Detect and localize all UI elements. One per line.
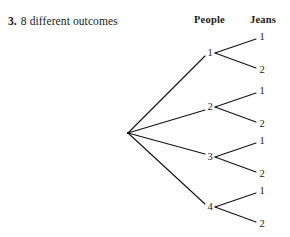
- people-1-to-jeans-2: [215, 53, 256, 68]
- people-node-3: 3: [205, 151, 215, 162]
- people-3-to-jeans-2: [215, 157, 256, 172]
- people-3-to-jeans-1: [215, 143, 256, 157]
- jeans-node-4-1: 1: [257, 185, 267, 196]
- people-node-2: 2: [205, 101, 215, 112]
- jeans-node-3-1: 1: [257, 135, 267, 146]
- jeans-node-3-2: 2: [257, 168, 267, 179]
- jeans-node-2-2: 2: [257, 118, 267, 129]
- root-branch-group: [128, 56, 205, 204]
- people-2-to-jeans-2: [215, 107, 256, 122]
- people-node-4: 4: [205, 201, 215, 212]
- jeans-node-2-1: 1: [257, 85, 267, 96]
- people-1-to-jeans-1: [215, 39, 256, 53]
- jeans-node-4-2: 2: [257, 218, 267, 229]
- people-4-to-jeans-1: [215, 193, 256, 207]
- stage1-branch-group: [215, 39, 256, 222]
- people-4-to-jeans-2: [215, 207, 256, 222]
- root-node-dot: [127, 132, 129, 134]
- tree-diagram: [0, 0, 290, 237]
- jeans-node-1-2: 2: [257, 64, 267, 75]
- people-2-to-jeans-1: [215, 93, 256, 107]
- people-node-1: 1: [205, 47, 215, 58]
- jeans-node-1-1: 1: [257, 31, 267, 42]
